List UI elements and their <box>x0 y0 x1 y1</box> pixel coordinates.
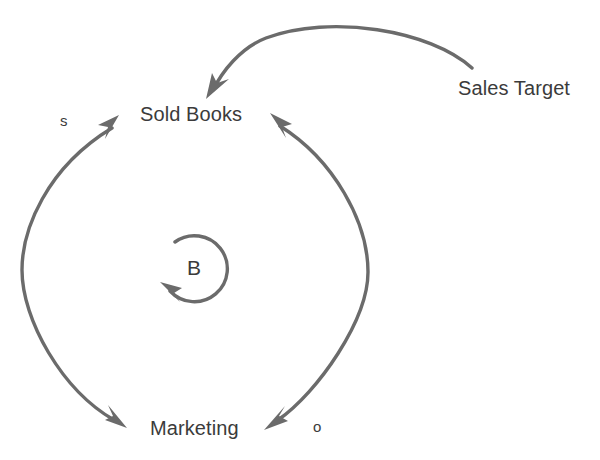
right-arc-top-arrowhead-icon <box>270 113 292 138</box>
top-arc-path <box>213 27 472 90</box>
polarity-label-o: o <box>313 419 321 434</box>
right-arc-bottom-arrowhead-icon <box>264 406 288 430</box>
node-label-sales-target: Sales Target <box>458 78 570 98</box>
node-label-sold-books: Sold Books <box>140 104 242 124</box>
top-arc-arrowhead-icon <box>206 73 229 99</box>
link-sold-books-to-marketing <box>264 113 368 430</box>
loop-label-balancing: B <box>187 257 201 278</box>
polarity-label-s: s <box>60 113 68 128</box>
link-marketing-to-sold-books <box>22 115 127 428</box>
node-label-marketing: Marketing <box>150 418 239 438</box>
diagram-canvas <box>0 0 600 460</box>
right-arc-path <box>278 126 368 420</box>
link-sales-target-to-sold-books <box>206 27 472 99</box>
left-arc-path <box>22 128 114 420</box>
causal-loop-diagram: Sold Books Marketing Sales Target s o B <box>0 0 600 460</box>
